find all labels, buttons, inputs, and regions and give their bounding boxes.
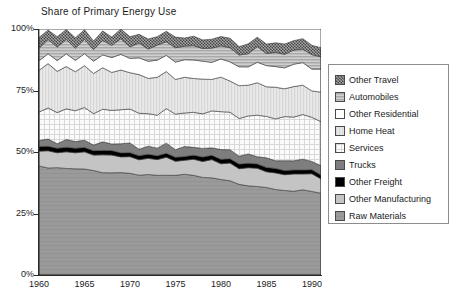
legend-item[interactable]: Other Freight bbox=[335, 173, 447, 190]
x-tick-label: 1970 bbox=[110, 279, 150, 289]
stacked-area-chart bbox=[39, 29, 321, 275]
legend-label: Services bbox=[349, 143, 384, 153]
x-tick-label: 1985 bbox=[246, 279, 286, 289]
legend-swatch-icon bbox=[335, 92, 345, 102]
legend-swatch-icon bbox=[335, 109, 345, 119]
chart-page: Share of Primary Energy Use 0%25%50%75%1… bbox=[0, 0, 458, 303]
y-tick-label: 50% bbox=[0, 146, 34, 156]
chart-title: Share of Primary Energy Use bbox=[41, 6, 176, 17]
legend-label: Other Residential bbox=[349, 109, 419, 119]
legend-label: Home Heat bbox=[349, 126, 395, 136]
x-tick-label: 1965 bbox=[64, 279, 104, 289]
legend-swatch-icon bbox=[335, 211, 345, 221]
legend-item[interactable]: Other Manufacturing bbox=[335, 190, 447, 207]
legend-item[interactable]: Services bbox=[335, 139, 447, 156]
x-tick-label: 1990 bbox=[292, 279, 332, 289]
legend-label: Automobiles bbox=[349, 92, 399, 102]
y-tick-label: 25% bbox=[0, 208, 34, 218]
legend-item[interactable]: Other Residential bbox=[335, 105, 447, 122]
y-tick-mark bbox=[34, 152, 38, 153]
legend-label: Other Travel bbox=[349, 75, 399, 85]
legend-item[interactable]: Trucks bbox=[335, 156, 447, 173]
legend-swatch-icon bbox=[335, 126, 345, 136]
legend-swatch-icon bbox=[335, 194, 345, 204]
legend-swatch-icon bbox=[335, 160, 345, 170]
legend-label: Other Manufacturing bbox=[349, 194, 431, 204]
legend-item[interactable]: Other Travel bbox=[335, 71, 447, 88]
x-tick-label: 1960 bbox=[19, 279, 59, 289]
x-axis-line bbox=[38, 275, 322, 276]
legend-label: Raw Materials bbox=[349, 211, 406, 221]
legend-item[interactable]: Automobiles bbox=[335, 88, 447, 105]
legend-item[interactable]: Home Heat bbox=[335, 122, 447, 139]
legend: Other TravelAutomobilesOther Residential… bbox=[328, 64, 449, 224]
y-tick-mark bbox=[34, 214, 38, 215]
y-tick-label: 0% bbox=[0, 269, 34, 279]
y-tick-label: 100% bbox=[0, 23, 34, 33]
legend-swatch-icon bbox=[335, 177, 345, 187]
y-tick-label: 75% bbox=[0, 85, 34, 95]
legend-label: Trucks bbox=[349, 160, 376, 170]
legend-swatch-icon bbox=[335, 75, 345, 85]
legend-item[interactable]: Raw Materials bbox=[335, 207, 447, 224]
y-tick-mark bbox=[34, 275, 38, 276]
legend-label: Other Freight bbox=[349, 177, 402, 187]
legend-swatch-icon bbox=[335, 143, 345, 153]
x-tick-label: 1980 bbox=[201, 279, 241, 289]
y-tick-mark bbox=[34, 91, 38, 92]
x-tick-label: 1975 bbox=[155, 279, 195, 289]
plot-area bbox=[39, 29, 321, 275]
y-tick-mark bbox=[34, 29, 38, 30]
